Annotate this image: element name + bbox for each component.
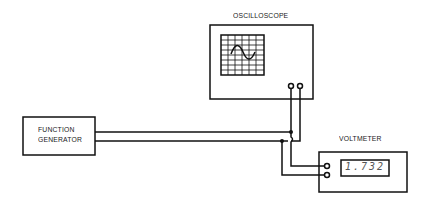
wire-voltmeter-bottom — [282, 141, 324, 175]
scope-terminal-1 — [289, 84, 294, 89]
voltmeter-label: VOLTMETER — [339, 134, 382, 144]
junction-dot — [280, 139, 284, 143]
junction-dot — [289, 130, 293, 134]
scope-terminal-2 — [298, 84, 303, 89]
function-generator-label-2: GENERATOR — [38, 135, 82, 145]
oscilloscope-grid — [221, 35, 264, 75]
voltmeter-terminal-1 — [325, 164, 330, 169]
voltmeter-terminal-2 — [325, 173, 330, 178]
oscilloscope-label: OSCILLOSCOPE — [233, 11, 288, 21]
voltmeter-box — [319, 152, 407, 192]
function-generator-label-1: FUNCTION — [38, 125, 74, 135]
voltmeter-reading: 1.732 — [345, 161, 385, 172]
